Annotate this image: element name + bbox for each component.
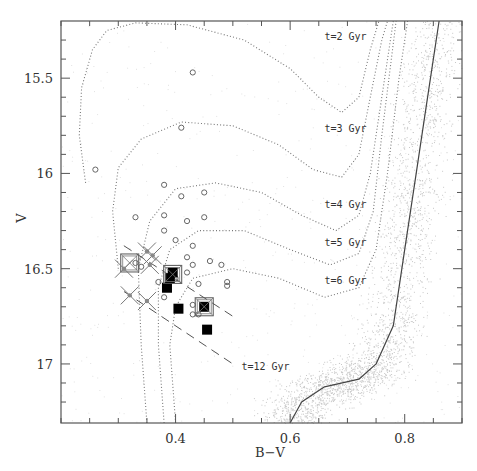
annotations: t=2 Gyrt=3 Gyrt=4 Gyrt=5 Gyrt=6 Gyrt=12 … xyxy=(241,31,366,372)
open-circle-marker xyxy=(196,281,201,286)
open-circle-marker xyxy=(202,215,207,220)
open-circle-marker xyxy=(225,283,230,288)
isochrone-age-label: t=2 Gyr xyxy=(325,31,367,42)
open-circle-marker xyxy=(133,260,138,265)
isochrone-age-label: t=6 Gyr xyxy=(325,275,367,286)
plot-frame: 0.40.60.815.51616.517 xyxy=(24,21,462,446)
open-circle-marker xyxy=(190,70,195,75)
open-circle-marker xyxy=(219,262,224,267)
open-circle-marker xyxy=(162,228,167,233)
open-circle-marker xyxy=(190,262,195,267)
cross-marker xyxy=(138,243,156,261)
open-circle-marker xyxy=(162,182,167,187)
filled-square-marker xyxy=(162,283,172,293)
color-magnitude-diagram: 0.40.60.815.51616.517 t=2 Gyrt=3 Gyrt=4 … xyxy=(0,0,477,471)
open-circle-marker xyxy=(207,258,212,263)
cross-marker xyxy=(138,292,156,310)
isochrone-curve xyxy=(79,21,379,183)
x-tick-label: 0.4 xyxy=(165,431,186,446)
open-circle-marker xyxy=(179,125,184,130)
x-tick-label: 0.6 xyxy=(280,431,301,446)
y-axis-label: V xyxy=(14,213,29,224)
open-circle-marker xyxy=(184,255,189,260)
open-circle-marker xyxy=(190,302,195,307)
data-markers xyxy=(93,70,230,335)
open-circle-marker xyxy=(93,167,98,172)
y-tick-label: 15.5 xyxy=(24,71,53,86)
cross-marker xyxy=(115,260,133,278)
open-circle-marker xyxy=(179,194,184,199)
x-axis-label: B−V xyxy=(255,445,285,460)
isochrone-age-label: t=5 Gyr xyxy=(325,237,367,248)
open-circle-marker xyxy=(190,312,195,317)
open-circle-marker xyxy=(184,270,189,275)
y-tick-label: 16 xyxy=(36,166,53,181)
open-circle-marker xyxy=(173,237,178,242)
open-circle-marker xyxy=(184,218,189,223)
open-circle-marker xyxy=(190,243,195,248)
isochrone-age-label: t=4 Gyr xyxy=(325,199,367,210)
y-tick-label: 17 xyxy=(36,357,53,372)
open-circle-marker xyxy=(162,213,167,218)
x-tick-label: 0.8 xyxy=(394,431,415,446)
open-square-marker xyxy=(195,298,213,316)
open-circle-marker xyxy=(162,295,167,300)
isochrone-curve xyxy=(113,21,388,269)
open-circle-marker xyxy=(202,190,207,195)
y-tick-label: 16.5 xyxy=(24,262,53,277)
open-circle-marker xyxy=(139,264,144,269)
isochrone-age-label: t=12 Gyr xyxy=(241,361,289,372)
isochrone-age-label: t=3 Gyr xyxy=(325,123,367,134)
filled-square-marker xyxy=(173,304,183,314)
cross-marker xyxy=(121,286,139,304)
filled-square-marker xyxy=(202,325,212,335)
open-circle-marker xyxy=(133,215,138,220)
